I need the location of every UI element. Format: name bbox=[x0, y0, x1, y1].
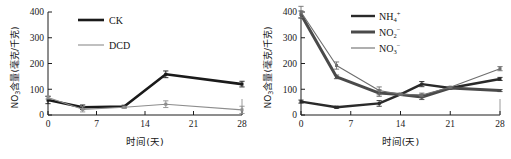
legend-label-NH4: NH4+ bbox=[379, 10, 401, 23]
plot-axes-frame bbox=[48, 12, 242, 115]
data-point-marker bbox=[378, 89, 381, 92]
y-axis-tick-label: 400 bbox=[283, 7, 298, 17]
x-axis-title: 时间(天) bbox=[126, 136, 163, 147]
data-point-marker bbox=[47, 96, 50, 99]
series-line-NO3 bbox=[301, 12, 500, 95]
right-chart-canvas: 010020030040007142128时间(天)NO3含量(毫克/千克)NH… bbox=[255, 0, 511, 159]
data-point-marker bbox=[378, 102, 381, 105]
y-axis-title: NO3含量(毫克/千克) bbox=[262, 26, 275, 108]
y-axis-tick-label: 200 bbox=[283, 59, 298, 69]
y-axis-tick-label: 100 bbox=[283, 85, 298, 95]
plot-axes-frame bbox=[301, 12, 500, 115]
y-axis-tick-label: 300 bbox=[283, 33, 298, 43]
data-point-marker bbox=[164, 103, 167, 106]
x-axis-tick-label: 28 bbox=[237, 119, 247, 129]
data-point-marker bbox=[241, 83, 244, 86]
data-point-marker bbox=[164, 73, 167, 76]
x-axis-tick-label: 7 bbox=[94, 119, 99, 129]
legend-label-NO3: NO3− bbox=[379, 42, 401, 55]
x-axis-tick-label: 0 bbox=[299, 119, 304, 129]
y-axis-tick-label: 100 bbox=[30, 85, 45, 95]
left-chart-canvas: 010020030040007142128时间(天)NO3含量(毫克/千克)CK… bbox=[0, 0, 255, 159]
x-axis-tick-label: 7 bbox=[348, 119, 353, 129]
data-point-marker bbox=[300, 100, 303, 103]
y-axis-tick-label: 300 bbox=[30, 33, 45, 43]
x-axis-tick-label: 0 bbox=[46, 119, 51, 129]
x-axis-tick-label: 14 bbox=[396, 119, 406, 129]
data-point-marker bbox=[335, 106, 338, 109]
x-axis-title: 时间(天) bbox=[382, 136, 419, 147]
x-axis-tick-label: 28 bbox=[495, 119, 505, 129]
data-point-marker bbox=[241, 108, 244, 111]
data-point-marker bbox=[499, 89, 502, 92]
legend-label-DCD: DCD bbox=[109, 40, 130, 51]
data-point-marker bbox=[81, 108, 84, 111]
data-point-marker bbox=[449, 86, 452, 89]
dual-line-chart-figure: 010020030040007142128时间(天)NO3含量(毫克/千克)CK… bbox=[0, 0, 511, 159]
x-axis-tick-label: 14 bbox=[140, 119, 150, 129]
y-axis-tick-label: 0 bbox=[39, 110, 44, 120]
data-point-marker bbox=[499, 77, 502, 80]
series-line-CK bbox=[48, 74, 242, 107]
data-point-marker bbox=[420, 83, 423, 86]
x-axis-tick-label: 21 bbox=[189, 119, 199, 129]
y-axis-tick-label: 400 bbox=[30, 7, 45, 17]
data-point-marker bbox=[335, 75, 338, 78]
chart-panel-left: 010020030040007142128时间(天)NO3含量(毫克/千克)CK… bbox=[0, 0, 255, 159]
data-point-marker bbox=[499, 67, 502, 70]
data-point-marker bbox=[399, 93, 402, 96]
y-axis-tick-label: 200 bbox=[30, 59, 45, 69]
chart-panel-right: 010020030040007142128时间(天)NO3含量(毫克/千克)NH… bbox=[255, 0, 511, 159]
data-point-marker bbox=[335, 64, 338, 67]
data-point-marker bbox=[123, 106, 126, 109]
data-point-marker bbox=[300, 11, 303, 14]
x-axis-tick-label: 21 bbox=[446, 119, 456, 129]
legend-label-NO2: NO2− bbox=[379, 26, 401, 39]
y-axis-tick-label: 0 bbox=[292, 110, 297, 120]
y-axis-title: NO3含量(毫克/千克) bbox=[9, 26, 22, 108]
series-line-DCD bbox=[48, 97, 242, 109]
data-point-marker bbox=[420, 93, 423, 96]
legend-label-CK: CK bbox=[109, 15, 124, 26]
